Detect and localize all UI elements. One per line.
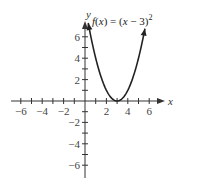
parabola-chart: −6−4−2246642−2−4−6xyf(x) = (x − 3)2: [0, 0, 213, 190]
x-tick-label: −6: [15, 105, 27, 117]
x-tick-label: 4: [125, 105, 131, 117]
y-tick-label: −2: [68, 116, 80, 128]
x-tick-label: 2: [104, 105, 110, 117]
y-axis-arrow-icon: [82, 21, 88, 29]
y-tick-label: 4: [75, 52, 81, 64]
parabola-curve: [87, 23, 147, 101]
x-axis-label: x: [167, 95, 173, 107]
y-tick-label: 6: [75, 31, 81, 43]
y-tick-label: −6: [68, 159, 80, 171]
y-axis-label: y: [85, 8, 91, 20]
y-tick-label: −4: [68, 138, 80, 150]
curve-arrow-icon: [141, 29, 147, 36]
labels: −6−4−2246642−2−4−6xyf(x) = (x − 3)2: [15, 8, 173, 171]
x-tick-label: −2: [58, 105, 70, 117]
x-tick-label: −4: [36, 105, 48, 117]
x-axis-arrow-icon: [157, 98, 165, 104]
function-label: f(x) = (x − 3)2: [92, 13, 152, 28]
parabola-path: [88, 23, 145, 101]
x-tick-label: 6: [146, 105, 152, 117]
y-tick-label: 2: [75, 74, 81, 86]
